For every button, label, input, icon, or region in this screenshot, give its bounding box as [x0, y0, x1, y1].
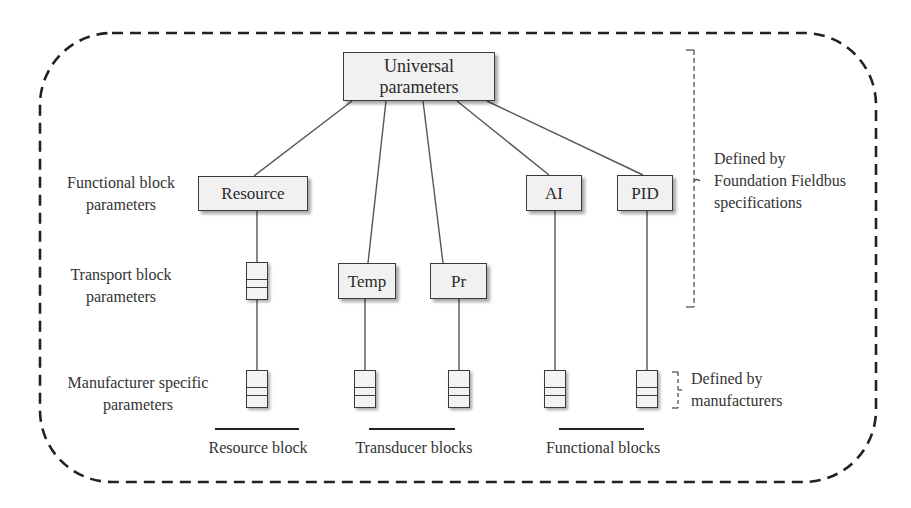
manufacturer-brace-icon [672, 372, 682, 408]
stacked-parameter-icon [636, 370, 658, 408]
transport-block-row-label: Transport block parameters [60, 264, 182, 308]
note-line: specifications [714, 192, 846, 214]
row-label-line: Transport block [60, 264, 182, 286]
row-label-line: Manufacturer specific [58, 372, 218, 394]
stacked-parameter-icon [246, 370, 268, 408]
row-label-line: parameters [58, 394, 218, 416]
ai-block-box: AI [526, 175, 582, 211]
note-line: Defined by [714, 148, 846, 170]
note-line: Foundation Fieldbus [714, 170, 846, 192]
universal-label-line1: Universal [384, 56, 454, 77]
foundation-brace-icon [686, 50, 700, 307]
manufacturer-row-label: Manufacturer specific parameters [58, 372, 218, 416]
note-line: manufacturers [691, 390, 783, 412]
functional-group-caption: Functional blocks [538, 438, 668, 458]
temp-block-box: Temp [338, 263, 396, 299]
stacked-parameter-icon [246, 262, 268, 300]
row-label-line: parameters [60, 194, 182, 216]
functional-group-rule [559, 428, 644, 430]
foundation-fieldbus-note: Defined by Foundation Fieldbus specifica… [714, 148, 846, 214]
note-line: Defined by [691, 368, 783, 390]
universal-label-line2: parameters [380, 77, 459, 98]
transducer-group-rule [369, 428, 455, 430]
stacked-parameter-icon [544, 370, 566, 408]
functional-block-row-label: Functional block parameters [60, 172, 182, 216]
stacked-parameter-icon [448, 370, 470, 408]
pr-label: Pr [451, 272, 466, 291]
transducer-group-caption: Transducer blocks [346, 438, 482, 458]
pid-label: PID [631, 184, 658, 203]
connector-lines [254, 101, 647, 370]
universal-parameters-box: Universal parameters [343, 52, 495, 101]
row-label-line: Functional block [60, 172, 182, 194]
pid-block-box: PID [617, 175, 673, 211]
temp-label: Temp [348, 272, 386, 291]
resource-group-rule [215, 428, 299, 430]
ai-label: AI [545, 184, 563, 203]
manufacturers-note: Defined by manufacturers [691, 368, 783, 412]
row-label-line: parameters [60, 286, 182, 308]
resource-group-caption: Resource block [196, 438, 320, 458]
stacked-parameter-icon [354, 370, 376, 408]
resource-block-box: Resource [198, 176, 308, 211]
resource-label: Resource [221, 184, 284, 203]
pr-block-box: Pr [430, 263, 487, 299]
